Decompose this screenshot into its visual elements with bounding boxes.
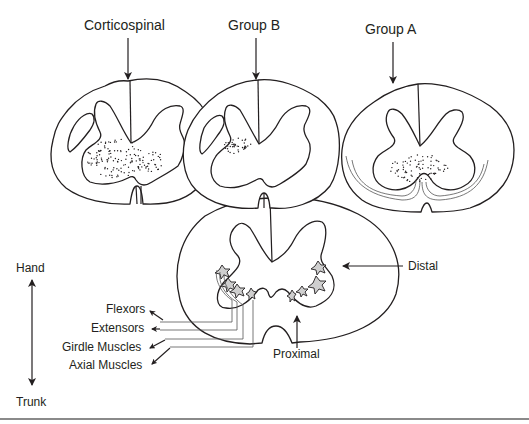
spinal-cord-diagram: Distal Proximal Flexors Extensors Girdle… <box>0 0 529 424</box>
extensors-label: Extensors <box>91 321 144 335</box>
corticospinal-pointer: Corticospinal <box>84 17 165 79</box>
trunk-label: Trunk <box>16 395 47 409</box>
proximal-label: Proximal <box>273 347 320 361</box>
group-a-pointer: Group A <box>365 21 417 83</box>
group-b-section <box>183 80 339 209</box>
muscle-labels: Flexors Extensors Girdle Muscles Axial M… <box>62 302 170 372</box>
group-b-label: Group B <box>228 17 280 33</box>
bottom-cord-section <box>160 198 399 347</box>
distal-label: Distal <box>408 259 438 273</box>
group-a-label: Group A <box>365 21 417 37</box>
hand-label: Hand <box>16 261 45 275</box>
axial-muscles-label: Axial Muscles <box>69 358 142 372</box>
group-b-pointer: Group B <box>228 17 280 79</box>
flexors-label: Flexors <box>106 302 145 316</box>
hand-trunk-axis: Hand Trunk <box>16 261 47 409</box>
group-a-section <box>342 84 514 212</box>
corticospinal-label: Corticospinal <box>84 17 165 33</box>
girdle-muscles-label: Girdle Muscles <box>62 340 141 354</box>
